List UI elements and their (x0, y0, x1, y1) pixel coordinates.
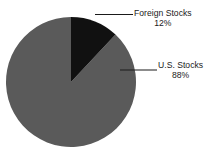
slice-label-foreign-value: 12% (134, 19, 192, 29)
slice-label-foreign: Foreign Stocks 12% (134, 9, 192, 28)
pie-chart-figure: Foreign Stocks 12% U.S. Stocks 88% (0, 0, 210, 159)
slice-label-domestic-value: 88% (158, 71, 203, 81)
slice-label-domestic: U.S. Stocks 88% (158, 61, 203, 80)
